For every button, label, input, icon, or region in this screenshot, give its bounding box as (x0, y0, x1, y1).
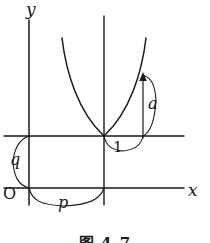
y-axis-label: y (26, 1, 36, 18)
dimension-label-q: q (10, 152, 20, 168)
origin-label: O (3, 186, 16, 202)
dimension-label-p: p (58, 195, 68, 211)
figure-caption: 图 4-7 (0, 231, 210, 243)
figure-container: y x O a q p 1 图 4-7 (0, 0, 210, 243)
x-axis-label: x (188, 182, 198, 199)
figure-drawing (0, 0, 210, 243)
dimension-label-one: 1 (113, 140, 123, 155)
brace-one (104, 136, 143, 151)
dimension-label-a: a (148, 96, 158, 112)
